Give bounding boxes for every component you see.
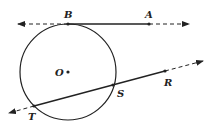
point-O: [66, 70, 69, 73]
point-R: [163, 69, 166, 72]
label-B: B: [63, 9, 72, 20]
label-O: O: [55, 67, 64, 78]
geometry-diagram: B A O S R T: [0, 0, 208, 123]
label-A: A: [144, 9, 153, 20]
diagram-svg: B A O S R T: [0, 0, 208, 123]
point-B: [66, 22, 69, 25]
label-R: R: [163, 77, 172, 88]
label-S: S: [117, 88, 124, 99]
secant-line-TR: [9, 61, 203, 113]
point-T: [32, 104, 35, 107]
point-S: [111, 83, 114, 86]
point-A: [147, 22, 150, 25]
label-T: T: [28, 111, 37, 122]
